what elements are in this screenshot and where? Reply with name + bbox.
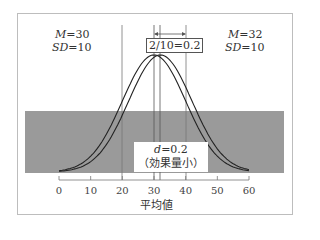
x-tick-label: 50 bbox=[211, 185, 224, 196]
effect-size-note: （効果量小） bbox=[138, 157, 204, 171]
group-b-sd: SD=10 bbox=[225, 41, 265, 54]
d-value: =0.2 bbox=[161, 143, 188, 156]
x-tick-label: 30 bbox=[148, 185, 161, 196]
x-axis-ticks bbox=[59, 176, 249, 180]
group-a-sd: SD=10 bbox=[52, 41, 92, 54]
arrow-head-right-icon bbox=[182, 32, 186, 36]
x-tick-label: 20 bbox=[116, 185, 129, 196]
difference-box: 2/10=0.2 bbox=[146, 38, 203, 53]
mean-var: M bbox=[55, 28, 66, 41]
x-tick-label: 60 bbox=[243, 185, 256, 196]
x-axis-label: 平均値 bbox=[140, 199, 173, 212]
group-a-mean: M=30 bbox=[55, 28, 89, 41]
sd-value: =10 bbox=[241, 41, 264, 54]
sd-var: SD bbox=[52, 41, 68, 54]
sd-var: SD bbox=[225, 41, 241, 54]
sd-value: =10 bbox=[68, 41, 91, 54]
x-tick-label: 40 bbox=[179, 185, 192, 196]
effect-size-value: d=0.2 bbox=[138, 143, 204, 157]
mean-value: =32 bbox=[239, 28, 262, 41]
x-tick-label: 10 bbox=[84, 185, 97, 196]
mean-value: =30 bbox=[66, 28, 89, 41]
mean-var: M bbox=[228, 28, 239, 41]
group-b-mean: M=32 bbox=[228, 28, 262, 41]
x-tick-label: 0 bbox=[56, 185, 62, 196]
effect-size-box: d=0.2 （効果量小） bbox=[134, 142, 208, 172]
arrow-head-left-icon bbox=[154, 32, 158, 36]
